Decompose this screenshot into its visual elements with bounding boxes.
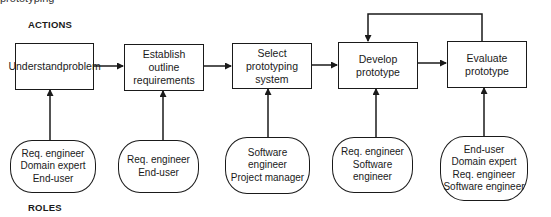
action-line: outline — [133, 61, 194, 74]
action-evaluate-prototype: Evaluate prototype — [447, 41, 527, 88]
role-group-5: End-user Domain expert Req. engineer Sof… — [440, 136, 528, 201]
role-group-1: Req. engineer Domain expert End-user — [10, 140, 96, 193]
role-line: Software — [341, 159, 404, 172]
role-line: engineer — [341, 171, 404, 184]
action-line: system — [246, 73, 298, 86]
action-line: Understand — [8, 60, 62, 73]
action-line: requirements — [133, 74, 194, 87]
role-line: Req. engineer — [20, 148, 85, 161]
role-line: Software engineer — [443, 181, 524, 194]
action-line: Establish — [133, 48, 194, 61]
action-select-prototyping-system: Select prototyping system — [232, 43, 312, 89]
role-group-4: Req. engineer Software engineer — [332, 137, 413, 193]
action-line: prototype — [356, 66, 400, 79]
action-line: Evaluate — [465, 52, 509, 65]
role-line: End-user — [20, 173, 85, 186]
feedback-arrow — [368, 14, 482, 41]
role-line: Domain expert — [443, 156, 524, 169]
role-line: End-user — [127, 167, 190, 180]
role-line: Software — [231, 147, 304, 160]
action-understand-problem: Understand problem — [15, 43, 94, 90]
action-establish-requirements: Establish outline requirements — [124, 44, 204, 91]
action-develop-prototype: Develop prototype — [338, 42, 418, 89]
role-line: Req. engineer — [443, 169, 524, 182]
action-line: Develop — [356, 53, 400, 66]
role-line: Domain expert — [20, 160, 85, 173]
role-line: engineer — [231, 159, 304, 172]
action-line: prototyping — [246, 60, 298, 73]
action-line: problem — [63, 60, 101, 73]
role-line: End-user — [443, 144, 524, 157]
role-group-2: Req. engineer End-user — [118, 140, 199, 193]
role-line: Req. engineer — [127, 154, 190, 167]
action-line: Select — [246, 47, 298, 60]
action-line: prototype — [465, 65, 509, 78]
role-line: Req. engineer — [341, 146, 404, 159]
role-line: Project manager — [231, 172, 304, 185]
role-group-3: Software engineer Project manager — [225, 137, 310, 194]
